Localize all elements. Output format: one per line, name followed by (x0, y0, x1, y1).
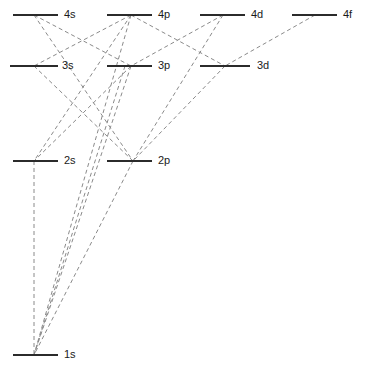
transition-line-4s-1s-via-2p (34, 66, 125, 355)
level-label-3d: 3d (257, 60, 269, 71)
energy-level-diagram-canvas (0, 0, 365, 368)
level-label-4d: 4d (251, 9, 263, 20)
transition-line-3p-1s (34, 66, 131, 355)
transition-line-4p-2s (34, 15, 131, 161)
transitions-group (34, 15, 315, 355)
level-label-2s: 2s (64, 155, 76, 166)
grotrian-diagram: 4s4p4d4f3s3p3d2s2p1s (0, 0, 365, 368)
transition-line-2p-1s (34, 161, 133, 355)
level-label-3p: 3p (158, 60, 170, 71)
level-label-2p: 2p (158, 155, 170, 166)
level-label-4s: 4s (64, 9, 76, 20)
transition-line-3p-2s (34, 66, 131, 161)
transition-line-4d-2p (133, 15, 223, 161)
transition-line-4f-3d (225, 15, 315, 66)
energy-levels-group (10, 15, 337, 355)
level-label-4f: 4f (343, 9, 352, 20)
level-label-4p: 4p (158, 9, 170, 20)
transition-line-3d-2p (133, 66, 225, 161)
level-label-1s: 1s (64, 349, 76, 360)
level-label-3s: 3s (62, 60, 74, 71)
